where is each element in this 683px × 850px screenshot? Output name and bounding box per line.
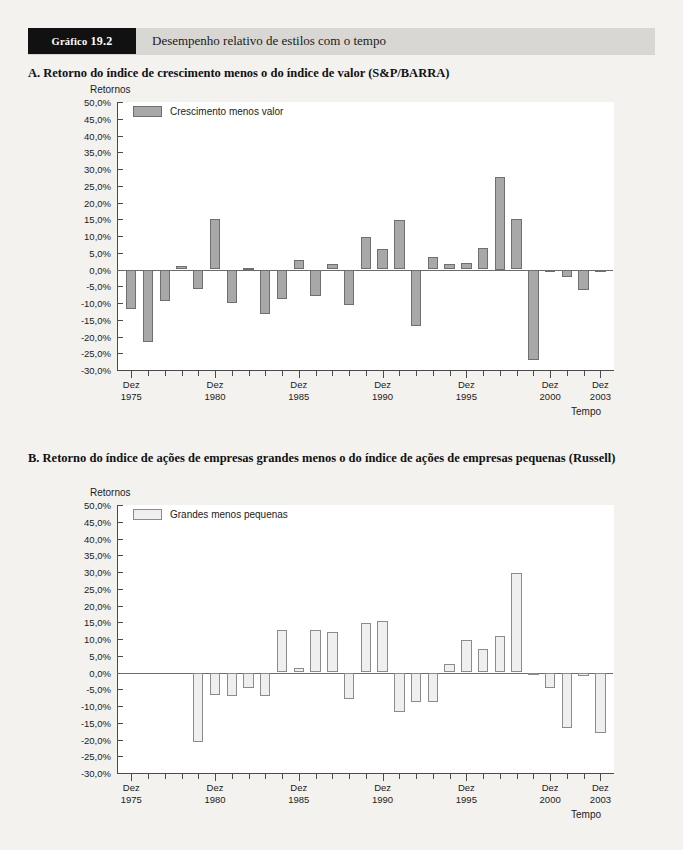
y-axis-tick-label: 40,0% xyxy=(63,130,111,141)
y-axis-tick-mark xyxy=(118,119,123,120)
panel-a-title: A. Retorno do índice de crescimento meno… xyxy=(28,66,449,81)
y-axis-tick-label: -10,0% xyxy=(63,701,111,712)
zero-baseline xyxy=(117,270,613,271)
y-axis-tick-label: -15,0% xyxy=(63,717,111,728)
x-axis-major-tick xyxy=(299,371,300,378)
bar xyxy=(377,249,387,269)
bar xyxy=(528,673,538,675)
y-axis-tick-label: 35,0% xyxy=(63,550,111,561)
x-axis-minor-tick xyxy=(517,371,518,376)
bar xyxy=(461,263,471,270)
x-axis-minor-tick xyxy=(349,371,350,376)
y-axis-tick-label: -5,0% xyxy=(63,281,111,292)
y-axis-tick-mark xyxy=(118,169,123,170)
x-axis-tick-label: Dez2003 xyxy=(590,379,611,402)
x-axis-major-tick xyxy=(600,774,601,781)
bar xyxy=(310,270,320,297)
x-axis-minor-tick xyxy=(165,774,166,779)
y-axis-tick-mark xyxy=(118,706,123,707)
x-axis-minor-tick xyxy=(332,774,333,779)
x-axis-tick-label: Dez1995 xyxy=(456,379,477,402)
x-axis-tick-label-month: Dez xyxy=(456,379,477,391)
x-axis-minor-tick xyxy=(584,371,585,376)
x-axis-minor-tick xyxy=(517,774,518,779)
x-axis-tick-label-year: 1995 xyxy=(456,794,477,806)
legend-swatch xyxy=(133,509,162,520)
bar xyxy=(511,219,521,270)
x-axis-tick-label-month: Dez xyxy=(372,379,393,391)
y-axis-tick-mark xyxy=(118,152,123,153)
bar xyxy=(511,573,521,672)
y-axis-tick-label: 5,0% xyxy=(63,247,111,258)
y-axis-tick-mark xyxy=(118,186,123,187)
x-axis-minor-tick xyxy=(567,371,568,376)
x-axis-minor-tick xyxy=(249,774,250,779)
y-axis-tick-label: -30,0% xyxy=(63,365,111,376)
bar xyxy=(310,630,320,672)
y-axis-tick-mark xyxy=(118,539,123,540)
chart-legend: Grandes menos pequenas xyxy=(133,509,288,520)
x-axis-minor-tick xyxy=(198,774,199,779)
bar xyxy=(394,220,404,270)
x-axis-minor-tick xyxy=(416,774,417,779)
x-axis-minor-tick xyxy=(533,371,534,376)
panel-b-title: B. Retorno do índice de ações de empresa… xyxy=(28,451,615,466)
x-axis-minor-tick xyxy=(433,371,434,376)
x-axis-minor-tick xyxy=(349,774,350,779)
y-axis-tick-label: -25,0% xyxy=(63,751,111,762)
bar xyxy=(227,673,237,696)
y-axis-tick-mark xyxy=(118,286,123,287)
y-axis-tick-mark xyxy=(118,337,123,338)
x-axis-minor-tick xyxy=(584,774,585,779)
x-axis-minor-tick xyxy=(316,774,317,779)
y-axis-tick-mark xyxy=(118,572,123,573)
bar xyxy=(160,270,170,301)
bar xyxy=(377,621,387,672)
y-axis-tick-label: -10,0% xyxy=(63,298,111,309)
x-axis-major-tick xyxy=(383,774,384,781)
bar xyxy=(243,673,253,689)
y-axis-tick-mark xyxy=(118,253,123,254)
y-axis-tick-label: 15,0% xyxy=(63,214,111,225)
y-axis-tick-label: 30,0% xyxy=(63,567,111,578)
y-axis-tick-label: -5,0% xyxy=(63,684,111,695)
y-axis-tick-mark xyxy=(118,320,123,321)
x-axis-minor-tick xyxy=(182,371,183,376)
x-axis-minor-tick xyxy=(282,774,283,779)
x-axis-tick-label: Dez1985 xyxy=(288,782,309,805)
bar xyxy=(143,270,153,343)
bar xyxy=(528,270,538,360)
x-axis-major-tick xyxy=(215,371,216,378)
bar xyxy=(444,264,454,269)
bar xyxy=(210,673,220,695)
bar xyxy=(294,668,304,672)
x-axis-tick-label-month: Dez xyxy=(540,782,561,794)
x-axis-major-tick xyxy=(215,774,216,781)
x-axis-minor-tick xyxy=(483,371,484,376)
bar xyxy=(578,673,588,677)
bar xyxy=(595,673,605,734)
x-axis-tick-label-year: 1985 xyxy=(288,391,309,403)
y-axis-tick-label: 50,0% xyxy=(63,97,111,108)
bar xyxy=(260,270,270,315)
x-axis-minor-tick xyxy=(450,774,451,779)
y-axis-tick-mark xyxy=(118,773,123,774)
bar xyxy=(176,266,186,270)
x-axis-tick-label-month: Dez xyxy=(456,782,477,794)
y-axis-tick-label: -25,0% xyxy=(63,348,111,359)
x-axis-tick-label: Dez2003 xyxy=(590,782,611,805)
x-axis-tick-label-year: 2003 xyxy=(590,794,611,806)
y-axis-tick-mark xyxy=(118,136,123,137)
x-axis-tick-label-month: Dez xyxy=(288,782,309,794)
x-axis-minor-tick xyxy=(148,371,149,376)
chart-legend: Crescimento menos valor xyxy=(133,106,283,117)
x-axis-minor-tick xyxy=(148,774,149,779)
bar xyxy=(327,632,337,672)
x-axis-minor-tick xyxy=(399,774,400,779)
y-axis-tick-mark xyxy=(118,353,123,354)
bar xyxy=(411,270,421,326)
y-axis-tick-label: 10,0% xyxy=(63,231,111,242)
y-axis-tick-mark xyxy=(118,102,123,103)
bar xyxy=(361,237,371,269)
exhibit-tag-number: 19.2 xyxy=(91,34,113,49)
